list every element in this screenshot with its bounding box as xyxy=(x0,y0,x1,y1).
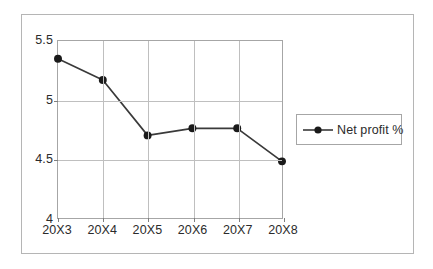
gridline-vertical xyxy=(148,41,149,218)
x-axis: 20X320X420X520X620X720X8 xyxy=(57,224,283,244)
x-tick-mark xyxy=(194,218,195,222)
y-tick-mark xyxy=(54,160,58,161)
gridline-horizontal xyxy=(58,101,282,102)
gridline-horizontal xyxy=(58,160,282,161)
series-line xyxy=(58,59,282,162)
data-point[interactable] xyxy=(278,157,286,165)
gridline-vertical xyxy=(239,41,240,218)
y-tick-label: 4.5 xyxy=(19,153,53,166)
series-net-profit xyxy=(58,41,282,218)
gridline-vertical xyxy=(194,41,195,218)
gridline-vertical xyxy=(103,41,104,218)
y-tick-label: 5.5 xyxy=(19,34,53,47)
y-tick-mark xyxy=(54,101,58,102)
legend-label: Net profit % xyxy=(337,123,404,137)
x-tick-mark xyxy=(148,218,149,222)
legend-line-marker-icon xyxy=(303,123,333,137)
x-tick-mark xyxy=(284,218,285,222)
data-point[interactable] xyxy=(233,124,241,132)
chart-figure: 44.555.5 20X320X420X520X620X720X8 Net pr… xyxy=(0,0,433,269)
x-tick-mark xyxy=(58,218,59,222)
chart-legend[interactable]: Net profit % xyxy=(296,114,402,145)
plot-area xyxy=(57,40,283,219)
y-axis: 44.555.5 xyxy=(15,40,53,219)
y-tick-label: 5 xyxy=(19,93,53,106)
x-tick-mark xyxy=(239,218,240,222)
x-tick-mark xyxy=(103,218,104,222)
data-point[interactable] xyxy=(54,55,62,63)
data-point[interactable] xyxy=(188,124,196,132)
x-tick-label: 20X8 xyxy=(253,224,313,238)
